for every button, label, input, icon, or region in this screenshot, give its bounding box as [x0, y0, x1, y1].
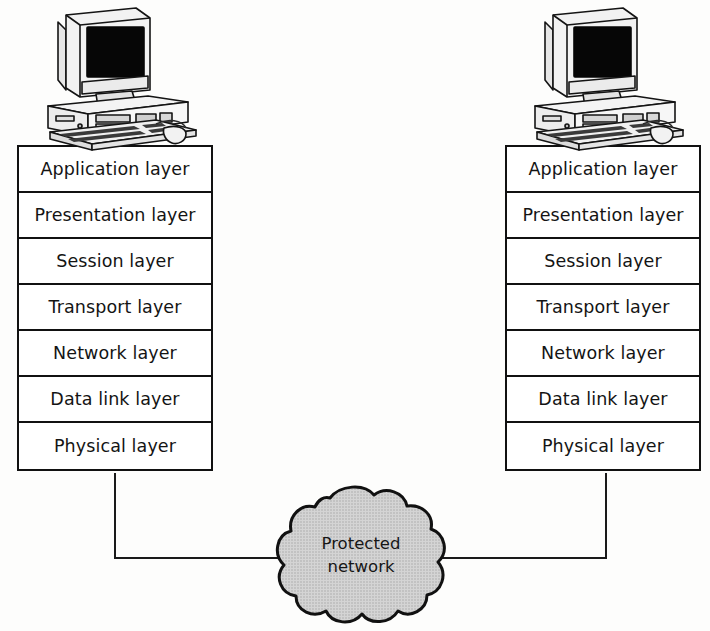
right-connector-vertical [605, 473, 607, 559]
layer-application[interactable]: Application layer [507, 147, 699, 193]
protected-network-cloud[interactable]: Protected network [270, 482, 452, 628]
layer-presentation[interactable]: Presentation layer [507, 193, 699, 239]
layer-physical[interactable]: Physical layer [19, 423, 211, 469]
layer-physical[interactable]: Physical layer [507, 423, 699, 469]
left-connector-vertical [114, 473, 116, 559]
diagram-canvas: Application layer Presentation layer Ses… [0, 0, 710, 631]
left-osi-stack: Application layer Presentation layer Ses… [17, 145, 213, 471]
left-computer-icon [36, 2, 204, 154]
layer-network[interactable]: Network layer [19, 331, 211, 377]
right-osi-stack: Application layer Presentation layer Ses… [505, 145, 701, 471]
layer-data-link[interactable]: Data link layer [507, 377, 699, 423]
layer-transport[interactable]: Transport layer [19, 285, 211, 331]
layer-session[interactable]: Session layer [507, 239, 699, 285]
layer-application[interactable]: Application layer [19, 147, 211, 193]
right-computer-icon [523, 2, 691, 154]
layer-network[interactable]: Network layer [507, 331, 699, 377]
layer-transport[interactable]: Transport layer [507, 285, 699, 331]
layer-data-link[interactable]: Data link layer [19, 377, 211, 423]
layer-presentation[interactable]: Presentation layer [19, 193, 211, 239]
layer-session[interactable]: Session layer [19, 239, 211, 285]
cloud-icon [270, 482, 452, 628]
